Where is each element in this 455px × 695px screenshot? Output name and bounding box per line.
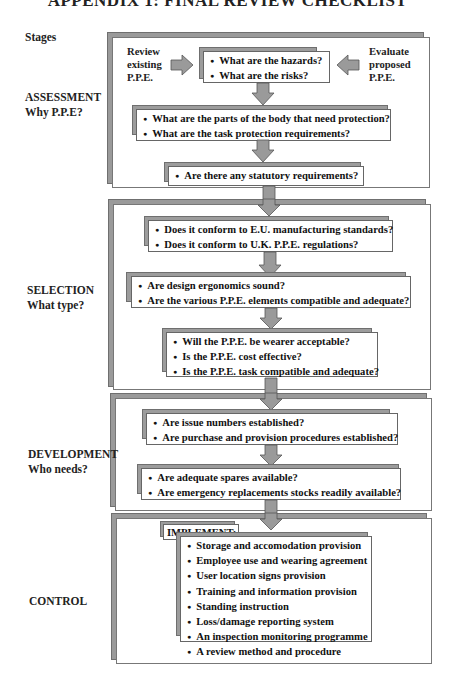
assessment-stage-name: ASSESSMENT <box>25 90 101 105</box>
development-stage-name: DEVELOPMENT <box>28 447 118 462</box>
checklist-item: An inspection monitoring programme <box>187 630 365 645</box>
down-arrow-icon <box>259 513 283 531</box>
issue-procedures-box: Are issue numbers established? Are purch… <box>146 413 398 445</box>
checklist-item: User location signs provision <box>187 569 365 584</box>
checklist-item: Are design ergonomics sound? <box>138 279 404 294</box>
checklist-item: Are adequate spares available? <box>148 471 394 486</box>
right-arrow-icon <box>170 55 194 75</box>
assessment-stage-subtitle: Why P.P.E? <box>25 105 83 120</box>
hazards-risks-box: What are the hazards? What are the risks… <box>203 51 330 83</box>
checklist-item: What are the parts of the body that need… <box>143 112 384 127</box>
down-arrow-icon <box>251 83 275 106</box>
selection-stage-name: SELECTION <box>27 283 94 298</box>
control-stage-name: CONTROL <box>29 594 87 609</box>
checklist-item: Are issue numbers established? <box>153 416 391 431</box>
side-left-line: P.P.E. <box>127 71 162 84</box>
checklist-item: Does it conform to E.U. manufacturing st… <box>155 223 386 238</box>
development-stage-subtitle: Who needs? <box>28 462 88 477</box>
body-protection-box: What are the parts of the body that need… <box>136 109 391 141</box>
side-left-line: Review <box>127 45 162 58</box>
checklist-item: Loss/damage reporting system <box>187 615 365 630</box>
selection-stage-subtitle: What type? <box>27 298 84 313</box>
checklist-item: A review method and procedure <box>187 645 365 660</box>
page-title: APPENDIX 1: FINAL REVIEW CHECKLIST <box>0 0 455 11</box>
checklist-item: Employee use and wearing agreement <box>187 554 365 569</box>
spares-box: Are adequate spares available? Are emerg… <box>141 468 401 500</box>
implement-list-box: Storage and accomodation provision Emplo… <box>180 536 372 642</box>
checklist-item: What are the hazards? <box>210 54 323 69</box>
evaluate-proposed-ppe-label: Evaluate proposed P.P.E. <box>369 45 411 84</box>
statutory-requirements-box: Are there any statutory requirements? <box>168 166 364 186</box>
side-right-line: proposed <box>369 58 411 71</box>
ergonomics-box: Are design ergonomics sound? Are the var… <box>131 276 411 308</box>
acceptability-box: Will the P.P.E. be wearer acceptable? Is… <box>166 332 378 377</box>
checklist-item: Storage and accomodation provision <box>187 539 365 554</box>
checklist-item: Training and information provision <box>187 585 365 600</box>
checklist-item: Are there any statutory requirements? <box>175 169 357 184</box>
checklist-item: Is the P.P.E. cost effective? <box>173 350 371 365</box>
side-right-line: P.P.E. <box>369 71 411 84</box>
review-existing-ppe-label: Review existing P.P.E. <box>127 45 162 84</box>
down-arrow-icon <box>257 199 281 217</box>
side-left-line: existing <box>127 58 162 71</box>
left-arrow-icon <box>336 55 360 75</box>
checklist-item: Will the P.P.E. be wearer acceptable? <box>173 335 371 350</box>
stages-heading: Stages <box>25 30 56 45</box>
down-arrow-icon <box>259 308 283 330</box>
down-arrow-icon <box>251 140 275 163</box>
side-right-line: Evaluate <box>369 45 411 58</box>
conformity-box: Does it conform to E.U. manufacturing st… <box>148 220 393 252</box>
checklist-item: Standing instruction <box>187 600 365 615</box>
